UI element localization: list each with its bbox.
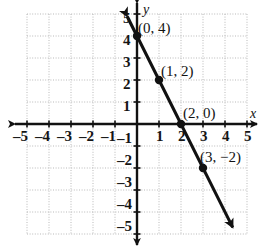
axis-name-label: y [143, 3, 149, 17]
y-tick-label: 2 [123, 77, 131, 92]
x-tick-label: –4 [35, 129, 50, 144]
y-tick-label: –2 [117, 153, 132, 168]
x-tick-label: 2 [178, 129, 186, 144]
y-tick-label: 1 [123, 99, 131, 114]
x-tick-label: 4 [222, 129, 230, 144]
y-tick-label: 4 [123, 33, 131, 48]
x-tick-label: –2 [79, 129, 94, 144]
point-label: (1, 2) [161, 64, 194, 79]
x-tick-label: 5 [244, 129, 252, 144]
axis-name-label: x [250, 107, 256, 121]
point-label: (0, 4) [138, 21, 171, 36]
data-point [177, 120, 185, 128]
data-point [199, 164, 207, 172]
x-tick-label: 3 [200, 129, 208, 144]
graph-figure: –5–4–3–2–112345 54321–1–2–3–4–5 (0, 4)(1… [0, 0, 261, 246]
y-tick-label: 5 [123, 11, 131, 26]
y-tick-label: –4 [117, 197, 132, 212]
y-tick-label: –5 [117, 219, 132, 234]
y-tick-label: –3 [117, 175, 132, 190]
point-label: (3, −2) [200, 150, 241, 165]
x-tick-label: 1 [156, 129, 164, 144]
x-tick-label: –5 [13, 129, 28, 144]
y-tick-label: –1 [117, 131, 132, 146]
x-tick-label: –1 [101, 129, 116, 144]
x-tick-label: –3 [57, 129, 72, 144]
y-tick-label: 3 [123, 55, 131, 70]
point-label: (2, 0) [183, 106, 216, 121]
